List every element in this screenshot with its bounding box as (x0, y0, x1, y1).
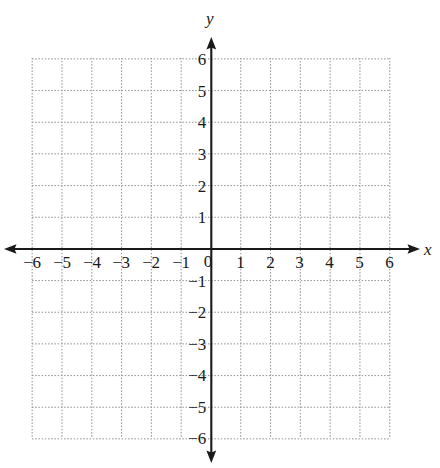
y-tick-label-2: 2 (186, 178, 206, 195)
x-tick-label-neg4: −4 (77, 254, 107, 271)
coordinate-plane-figure: y x 0 −6 −5 −4 −3 −2 −1 1 2 3 4 5 6 6 5 … (0, 0, 440, 468)
x-tick-label-neg1: −1 (166, 254, 196, 271)
y-tick-label-3: 3 (186, 146, 206, 163)
x-tick-label-3: 3 (288, 254, 311, 271)
x-tick-label-5: 5 (348, 254, 371, 271)
x-tick-label-4: 4 (318, 254, 341, 271)
y-tick-label-1: 1 (186, 209, 206, 226)
y-tick-label-neg6: −6 (176, 430, 206, 447)
y-tick-label-5: 5 (186, 83, 206, 100)
y-axis-label: y (206, 10, 214, 27)
x-tick-label-1: 1 (229, 254, 252, 271)
x-axis-label: x (424, 241, 432, 258)
x-tick-label-neg6: −6 (17, 254, 47, 271)
x-tick-label-6: 6 (378, 254, 401, 271)
y-tick-label-6: 6 (186, 51, 206, 68)
y-tick-label-neg4: −4 (176, 367, 206, 384)
y-tick-label-neg5: −5 (176, 399, 206, 416)
x-tick-label-neg5: −5 (47, 254, 77, 271)
y-tick-label-neg2: −2 (176, 304, 206, 321)
coordinate-plane-canvas (0, 0, 440, 468)
origin-label: 0 (196, 253, 212, 270)
x-tick-label-2: 2 (259, 254, 282, 271)
x-tick-label-neg3: −3 (106, 254, 136, 271)
y-tick-label-4: 4 (186, 114, 206, 131)
y-tick-label-neg1: −1 (176, 273, 206, 290)
y-tick-label-neg3: −3 (176, 336, 206, 353)
x-tick-label-neg2: −2 (136, 254, 166, 271)
